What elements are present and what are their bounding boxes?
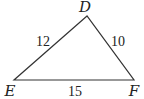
side-label-df: 10 xyxy=(111,34,125,49)
vertex-label-e: E xyxy=(4,82,16,99)
vertex-label-f: F xyxy=(128,82,140,99)
triangle-diagram: D E F 12 10 15 xyxy=(0,0,144,99)
side-label-ed: 12 xyxy=(36,34,50,49)
side-label-ef: 15 xyxy=(68,84,82,99)
vertex-label-d: D xyxy=(78,0,91,16)
